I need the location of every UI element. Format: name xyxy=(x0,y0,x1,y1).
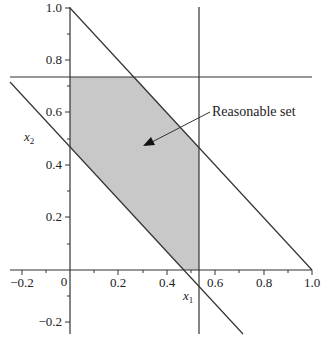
x-tick-label: 0.2 xyxy=(110,275,126,290)
annotation-label: Reasonable set xyxy=(212,104,296,119)
y-tick-label: 0.2 xyxy=(46,209,62,224)
x-tick-label: 1.0 xyxy=(304,275,320,290)
y-tick-label: −0.2 xyxy=(38,314,62,329)
y-tick-label: 1.0 xyxy=(46,0,62,15)
y-tick-label: 0.4 xyxy=(46,157,63,172)
x-tick-label: 0.6 xyxy=(207,275,224,290)
x-tick-label: 0.4 xyxy=(159,275,176,290)
y-axis-label: x2 xyxy=(23,129,34,146)
reasonable-set-region xyxy=(70,77,199,270)
y-tick-label: 0.6 xyxy=(46,104,63,119)
chart-canvas: −0.2 0 0.2 0.4 0.6 0.8 1.0 1.0 0.8 0.6 0… xyxy=(0,0,329,349)
x-tick-label: 0.8 xyxy=(256,275,272,290)
x-tick-label: −0.2 xyxy=(10,275,34,290)
y-tick-label: 0.8 xyxy=(46,52,62,67)
x-tick-label: 0 xyxy=(61,274,68,289)
x-axis-label: x1 xyxy=(182,288,193,305)
